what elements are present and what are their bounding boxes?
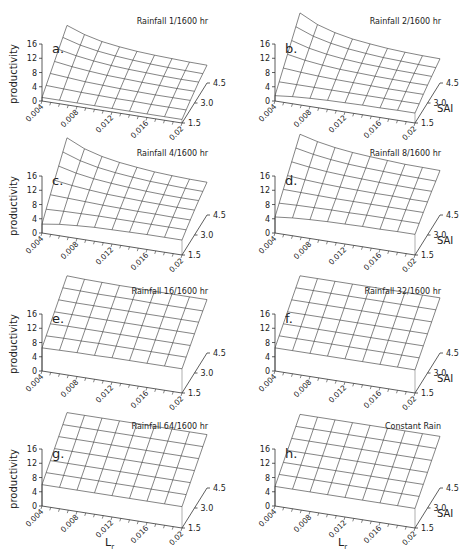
lr-tick-label: 0.02 [167, 256, 185, 274]
lr-tick-label: 0.016 [362, 523, 384, 545]
z-tick-label: 8 [265, 339, 270, 348]
lr-tick-label: 0.02 [167, 529, 185, 547]
panel-letter: b. [285, 41, 297, 56]
z-tick-label: 16 [260, 445, 270, 454]
z-tick-label: 8 [265, 201, 270, 210]
sai-tick-label: 3.0 [201, 99, 214, 108]
panel-title: Rainfall 2/1600 hr [370, 17, 442, 26]
lr-tick-label: 0.008 [59, 377, 81, 399]
z-tick-label: 16 [260, 310, 270, 319]
sai-tick-label: 1.5 [188, 524, 201, 533]
z-tick-label: 8 [32, 201, 37, 210]
lr-tick-label: 0.008 [292, 377, 314, 399]
panel-title: Rainfall 32/1600 hr [365, 287, 442, 296]
z-axis-label: productivity [8, 176, 19, 236]
lr-tick-label: 0.016 [362, 388, 384, 410]
sai-axis-label: SAI [437, 508, 453, 519]
lr-tick-label: 0.016 [362, 250, 384, 272]
sai-tick-label: 1.5 [421, 251, 434, 260]
panel-letter: f. [285, 311, 293, 326]
panel-title: Rainfall 4/1600 hr [137, 149, 209, 158]
z-tick-label: 12 [27, 324, 37, 333]
z-tick-label: 4 [265, 353, 270, 362]
lr-axis-label: Lr [338, 536, 347, 551]
sai-tick-label: 4.5 [213, 349, 226, 358]
lr-tick-label: 0.008 [59, 107, 81, 129]
surface-panel-a: Rainfall 1/1600 hra.0481216productivity0… [8, 17, 226, 142]
lr-tick-label: 0.004 [24, 234, 46, 256]
lr-tick-label: 0.012 [327, 383, 349, 405]
lr-tick-label: 0.008 [292, 107, 314, 129]
panel-letter: h. [285, 446, 297, 461]
z-tick-label: 8 [32, 339, 37, 348]
z-tick-label: 12 [260, 54, 270, 63]
z-tick-label: 12 [27, 186, 37, 195]
sai-tick-label: 3.0 [201, 369, 214, 378]
lr-tick-label: 0.008 [292, 239, 314, 261]
sai-tick-label: 4.5 [446, 211, 459, 220]
z-tick-label: 8 [32, 69, 37, 78]
lr-tick-label: 0.012 [94, 245, 116, 267]
lr-tick-label: 0.016 [129, 523, 151, 545]
z-tick-label: 12 [27, 459, 37, 468]
surface-panel-g: Rainfall 64/1600 hrg.0481216productivity… [8, 413, 226, 551]
surface-panel-b: Rainfall 2/1600 hrb.04812160.0040.0080.0… [257, 13, 459, 142]
sai-tick-label: 1.5 [421, 389, 434, 398]
z-tick-label: 16 [260, 172, 270, 181]
panel-letter: d. [285, 173, 297, 188]
z-tick-label: 16 [27, 310, 37, 319]
z-tick-label: 12 [260, 186, 270, 195]
z-tick-label: 16 [27, 40, 37, 49]
surface-wireframe [42, 25, 207, 119]
z-tick-label: 12 [27, 54, 37, 63]
panel-title: Rainfall 8/1600 hr [370, 149, 442, 158]
sai-tick-label: 3.0 [201, 231, 214, 240]
sai-axis-label: SAI [437, 235, 453, 246]
sai-tick-label: 4.5 [446, 484, 459, 493]
sai-tick-label: 1.5 [421, 524, 434, 533]
panel-letter: c. [52, 173, 63, 188]
lr-tick-label: 0.02 [400, 124, 418, 142]
surface-plots: Rainfall 1/1600 hra.0481216productivity0… [0, 0, 466, 553]
z-tick-label: 16 [27, 445, 37, 454]
sai-tick-label: 3.0 [201, 504, 214, 513]
panel-title: Rainfall 64/1600 hr [132, 422, 209, 431]
z-tick-label: 12 [260, 324, 270, 333]
sai-axis-label: SAI [437, 103, 453, 114]
z-tick-label: 8 [32, 474, 37, 483]
z-axis-label: productivity [8, 314, 19, 374]
z-tick-label: 4 [32, 83, 37, 92]
z-tick-label: 4 [32, 353, 37, 362]
z-tick-label: 4 [265, 488, 270, 497]
z-tick-label: 4 [265, 83, 270, 92]
sai-tick-label: 1.5 [188, 251, 201, 260]
panel-title: Constant Rain [385, 422, 441, 431]
lr-tick-label: 0.008 [59, 512, 81, 534]
lr-tick-label: 0.02 [400, 394, 418, 412]
sai-tick-label: 4.5 [213, 211, 226, 220]
lr-tick-label: 0.004 [24, 372, 46, 394]
lr-tick-label: 0.004 [257, 234, 279, 256]
surface-panel-c: Rainfall 4/1600 hrc.0481216productivity0… [8, 138, 226, 274]
lr-tick-label: 0.016 [129, 118, 151, 140]
z-tick-label: 8 [265, 69, 270, 78]
lr-tick-label: 0.012 [94, 383, 116, 405]
surface-panel-f: Rainfall 32/1600 hrf.04812160.0040.0080.… [257, 276, 459, 412]
lr-tick-label: 0.004 [257, 372, 279, 394]
panel-title: Rainfall 16/1600 hr [132, 287, 209, 296]
lr-tick-label: 0.02 [167, 124, 185, 142]
lr-tick-label: 0.004 [24, 507, 46, 529]
sai-axis-label: SAI [437, 373, 453, 384]
panel-letter: a. [52, 41, 64, 56]
lr-tick-label: 0.02 [400, 256, 418, 274]
z-axis-label: productivity [8, 44, 19, 104]
surface-panel-d: Rainfall 8/1600 hrd.04812160.0040.0080.0… [257, 134, 459, 274]
lr-tick-label: 0.016 [129, 388, 151, 410]
sai-tick-label: 4.5 [446, 79, 459, 88]
panel-letter: g. [52, 446, 64, 461]
z-tick-label: 8 [265, 474, 270, 483]
z-tick-label: 16 [27, 172, 37, 181]
z-tick-label: 12 [260, 459, 270, 468]
z-axis-label: productivity [8, 449, 19, 509]
lr-tick-label: 0.008 [292, 512, 314, 534]
